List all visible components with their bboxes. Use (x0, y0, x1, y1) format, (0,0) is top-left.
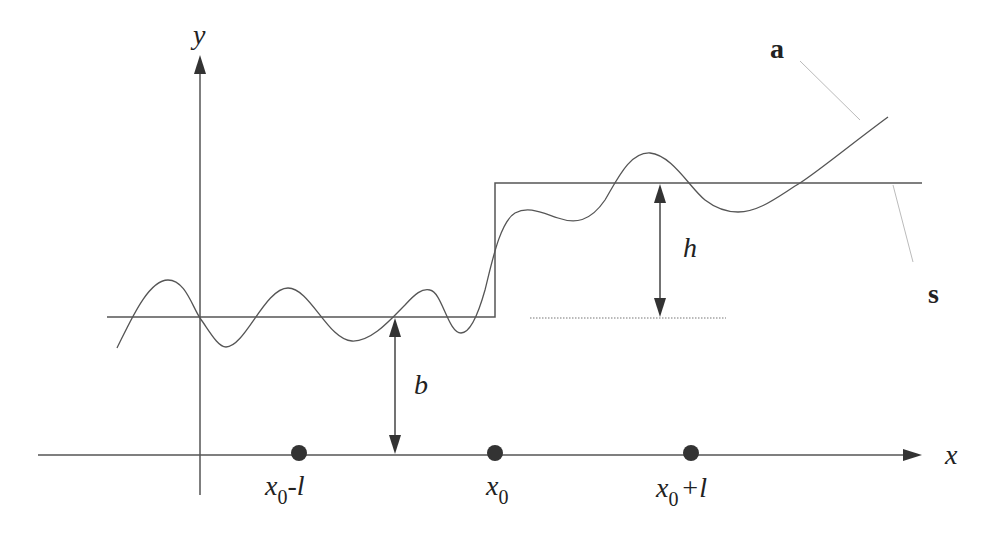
b-label: b (414, 369, 428, 400)
curve-s-label: s (928, 278, 939, 309)
x-axis-arrow-icon (903, 449, 922, 461)
b-arrow-down-icon (389, 435, 401, 454)
h-dimension: h (654, 184, 697, 317)
h-arrow-up-icon (654, 184, 666, 203)
point-x0-minus-l (291, 445, 307, 461)
curve-a-label: a (770, 33, 784, 64)
tick-label-x0-plus-l: x0+l (655, 472, 707, 510)
oscillating-curve-a (117, 117, 888, 348)
y-axis-arrow-icon (194, 55, 206, 74)
point-x0-plus-l (683, 445, 699, 461)
y-axis-label: y (190, 19, 206, 50)
step-function-diagram: x y a s h b x0-l x0 x0+l (0, 0, 994, 537)
h-arrow-down-icon (654, 298, 666, 317)
step-function-s (107, 183, 922, 317)
point-x0 (487, 445, 503, 461)
tick-label-x0-minus-l: x0-l (264, 470, 305, 508)
b-dimension: b (389, 318, 428, 454)
b-arrow-up-icon (389, 318, 401, 337)
leader-line-a (800, 61, 860, 120)
x-axis-label: x (944, 439, 958, 470)
leader-line-s (893, 185, 913, 262)
tick-label-x0: x0 (485, 470, 508, 508)
h-label: h (683, 232, 697, 263)
y-axis: y (190, 19, 206, 495)
